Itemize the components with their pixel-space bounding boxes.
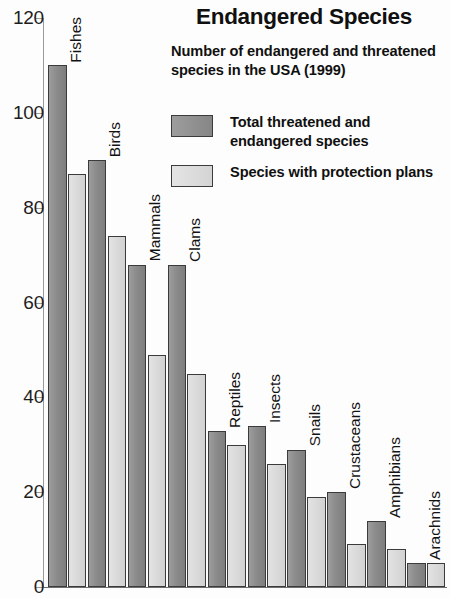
bar: [88, 160, 107, 587]
bar: [227, 445, 246, 587]
category-label: Clams: [187, 218, 203, 262]
bar: [187, 374, 206, 587]
category-label: Snails: [307, 404, 323, 446]
bar: [168, 265, 187, 587]
legend-swatch: [171, 165, 213, 187]
legend-item: Species with protection plans: [171, 163, 446, 197]
bar: [347, 544, 366, 587]
x-axis-line: [43, 587, 447, 588]
bar: [208, 431, 227, 587]
y-axis-tick-label: 100: [11, 102, 44, 124]
category-label: Insects: [267, 374, 283, 423]
category-label: Amphibians: [387, 437, 403, 518]
y-axis-tick-label: 120: [11, 7, 44, 29]
bar-group: Snails: [287, 0, 327, 587]
bar: [367, 521, 386, 587]
chart-subtitle: Number of endangered and threatened spec…: [171, 42, 443, 81]
chart-title: Endangered Species: [196, 4, 412, 30]
bar-group: Birds: [88, 0, 128, 587]
y-axis-tick-label: 60: [11, 292, 44, 314]
bar: [267, 464, 286, 587]
y-axis-tick-label: 40: [11, 386, 44, 408]
chart-legend: Total threatened and endangered speciesS…: [171, 113, 446, 209]
y-axis-tick-label: 0: [11, 576, 44, 598]
bar-group: Reptiles: [208, 0, 248, 587]
bar-group: Mammals: [128, 0, 168, 587]
bar: [128, 265, 147, 587]
bar: [48, 65, 67, 587]
plot-area: FishesBirdsMammalsClamsReptilesInsectsSn…: [48, 0, 447, 587]
bar: [327, 492, 346, 587]
bar: [68, 174, 87, 587]
bar: [307, 497, 326, 587]
y-axis-tick-label: 80: [11, 197, 44, 219]
bar-group: Crustaceans: [327, 0, 367, 587]
endangered-species-bar-chart: 020406080100120 FishesBirdsMammalsClamsR…: [0, 0, 450, 598]
legend-swatch: [171, 115, 213, 137]
category-label: Mammals: [147, 194, 163, 261]
bar-group: Clams: [168, 0, 208, 587]
category-label: Fishes: [68, 17, 84, 63]
category-label: Birds: [107, 122, 123, 157]
legend-label: Species with protection plans: [230, 163, 446, 182]
legend-label: Total threatened and endangered species: [230, 113, 446, 151]
y-axis-tick-label: 20: [11, 481, 44, 503]
bar: [108, 236, 127, 587]
bar: [387, 549, 406, 587]
bar-group: Fishes: [48, 0, 88, 587]
bar: [407, 563, 426, 587]
bar-group: Insects: [248, 0, 288, 587]
legend-item: Total threatened and endangered species: [171, 113, 446, 151]
category-label: Crustaceans: [347, 402, 363, 489]
bar: [248, 426, 267, 587]
category-label: Arachnids: [427, 491, 443, 560]
bar: [427, 563, 446, 587]
category-label: Reptiles: [227, 372, 243, 428]
bar: [148, 355, 167, 587]
bar-group: Amphibians: [367, 0, 407, 587]
bar: [287, 450, 306, 588]
bar-group: Arachnids: [407, 0, 447, 587]
